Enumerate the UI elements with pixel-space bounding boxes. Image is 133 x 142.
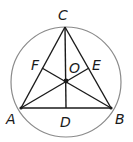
- label-A: A: [5, 111, 16, 127]
- label-E: E: [92, 57, 101, 73]
- label-F: F: [31, 57, 40, 73]
- point-O: [64, 79, 69, 84]
- segment-CD: [65, 27, 66, 108]
- geometry-diagram: C A B D F E O: [0, 0, 133, 142]
- label-O: O: [69, 60, 80, 76]
- label-C: C: [58, 7, 68, 23]
- point-A: [19, 106, 22, 109]
- label-B: B: [115, 111, 125, 127]
- point-B: [109, 106, 112, 109]
- label-D: D: [60, 114, 71, 130]
